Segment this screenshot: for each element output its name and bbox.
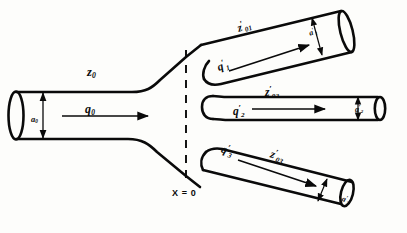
label-station-x-zero: X = 0 [172, 188, 196, 198]
trunk-inlet-ellipse [9, 92, 24, 140]
trunk-bottom-wall [16, 139, 200, 187]
branch-1-top-wall [201, 11, 341, 45]
branch-1-pipe [201, 11, 352, 85]
branch-2-top-wall [213, 96, 378, 97]
label-branch-2-length: z′02 [265, 85, 279, 100]
label-trunk-flow: q0 [85, 102, 95, 116]
flow-arrow-branch-1 [229, 45, 309, 71]
branch-3-cusp [201, 152, 206, 170]
branch-2-cusp [202, 96, 213, 119]
branch-2-bottom-wall [213, 119, 378, 120]
label-branch-2-radius: a′2 [355, 104, 363, 115]
label-trunk-length: z0 [87, 64, 96, 80]
pipe-trifurcation-figure: z0 q0 a0 z′01 q′1 a′1 z′02 q′2 a′2 z′03 … [0, 0, 407, 233]
label-trunk-radius: a0 [31, 114, 38, 125]
branch-2-outlet-ellipse [375, 97, 385, 120]
label-branch-2-flow: q′2 [233, 104, 245, 119]
radius-dimension-branch-3 [318, 179, 327, 201]
branch-2-pipe [202, 96, 378, 120]
trunk-top-wall [16, 45, 201, 92]
branch-1-outlet-ellipse [335, 10, 357, 54]
branch-1-cusp [203, 61, 209, 79]
